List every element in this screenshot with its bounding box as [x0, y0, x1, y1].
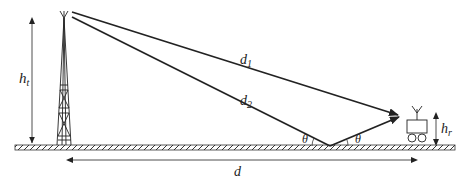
reflection-angle-label: θ — [355, 132, 361, 146]
receiver-height-dimension: hr — [433, 112, 452, 146]
direct-ray: d1 — [72, 12, 398, 115]
direct-path-label: d1 — [240, 52, 252, 69]
reflected-ray: d2 — [72, 17, 399, 146]
incidence-angle-label: θ — [302, 132, 308, 146]
transmitter-height-dimension: ht — [19, 17, 35, 143]
distance-dimension: d — [66, 157, 418, 179]
receiver-vehicle-icon — [407, 106, 427, 142]
ground — [15, 145, 455, 150]
reflected-path-label: d2 — [240, 93, 252, 110]
distance-label: d — [234, 164, 242, 179]
reflection-angles: θ θ — [302, 132, 361, 146]
receiver-height-label: hr — [441, 121, 452, 138]
transmitter-height-label: ht — [19, 70, 30, 88]
transmitter-tower-icon — [57, 11, 71, 145]
two-ray-diagram: ht d1 d2 θ θ d hr — [0, 0, 468, 183]
